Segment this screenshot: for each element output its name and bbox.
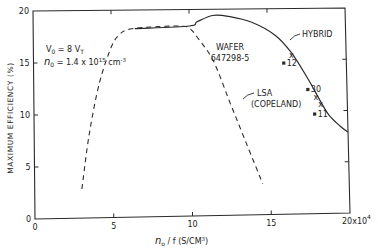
- x-multiplier: 20x104: [342, 213, 371, 226]
- x-axis-title: no / f (S/CM3): [155, 235, 208, 247]
- hybrid-label: HYBRID: [302, 30, 332, 39]
- n0-annotation: n0 = 1.4 x 1015 cm-3: [44, 56, 126, 68]
- plot-border: [33, 8, 350, 219]
- v0-annotation: V0 = 8 VT: [46, 45, 84, 55]
- wafer-label: WAFER: [216, 43, 245, 52]
- point-label: 12: [287, 59, 297, 68]
- axis-ticks: 05101505101520: [19, 7, 349, 232]
- square-marker: [313, 112, 316, 115]
- point-label: 30: [311, 85, 321, 94]
- square-marker: [306, 88, 309, 91]
- y-tick-label: 10: [20, 111, 30, 120]
- plot-frame: [33, 8, 350, 219]
- y-tick-label: 0: [26, 215, 31, 224]
- data-series: xxx123011: [82, 15, 348, 189]
- x-tick-label: 5: [111, 222, 116, 231]
- square-marker: [282, 61, 285, 64]
- x-tick-label: 0: [32, 223, 37, 232]
- y-axis-title: MAXIMUM EFFICIENCY (%): [6, 62, 15, 173]
- copeland-label: (COPELAND): [251, 100, 301, 109]
- lsa-leader-line: [243, 93, 254, 99]
- hybrid-leader-line: [290, 34, 300, 40]
- y-tick-label: 20: [19, 7, 29, 16]
- point-label: 11: [318, 110, 328, 119]
- x-tick-label: 15: [266, 219, 276, 228]
- efficiency-chart: 05101505101520 xxx123011 MAXIMUM EFFICIE…: [0, 0, 378, 249]
- lsa-label: LSA: [257, 89, 273, 98]
- x-tick-label: 10: [187, 220, 197, 229]
- x-marker: x: [318, 100, 323, 109]
- y-tick-label: 5: [25, 163, 30, 172]
- y-tick-label: 15: [19, 59, 29, 68]
- wafer-id: 647298-5: [211, 54, 250, 63]
